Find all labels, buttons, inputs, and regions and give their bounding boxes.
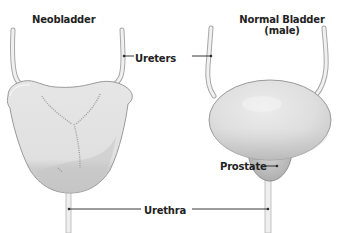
prostate-label: Prostate bbox=[220, 161, 267, 172]
urethra-label: Urethra bbox=[144, 205, 186, 216]
neobladder-illustration bbox=[7, 30, 132, 233]
neobladder-title: Neobladder bbox=[32, 14, 95, 25]
normal-bladder-title: Normal Bladder (male) bbox=[228, 14, 336, 36]
ureters-label: Ureters bbox=[135, 53, 176, 64]
normal-bladder-title-line1: Normal Bladder bbox=[228, 14, 336, 25]
normal-bladder-illustration bbox=[208, 28, 331, 233]
normal-bladder-title-line2: (male) bbox=[228, 25, 336, 36]
urethra-neobladder bbox=[66, 188, 71, 233]
urethra-normal bbox=[265, 178, 271, 233]
